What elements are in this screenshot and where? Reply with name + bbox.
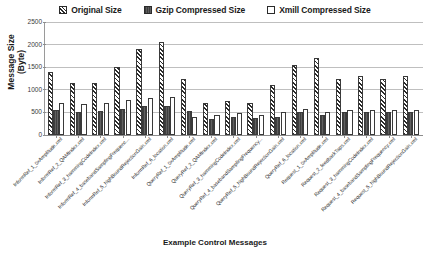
bar-gzip-compressed-size <box>253 118 258 135</box>
bar-group <box>289 22 311 135</box>
bar-group <box>222 22 244 135</box>
bar-group <box>156 22 178 135</box>
bar-group <box>355 22 377 135</box>
bar-original-size <box>70 83 75 135</box>
bar-gzip-compressed-size <box>53 110 58 135</box>
chart-bars <box>45 22 422 135</box>
bar-original-size <box>314 58 319 135</box>
chart-plot-area: 05001000150020002500 <box>44 22 422 135</box>
bar-group <box>200 22 222 135</box>
bar-xmill-compressed-size <box>303 109 308 135</box>
bar-original-size <box>92 83 97 135</box>
legend-label-original-size: Original Size <box>71 5 121 15</box>
y-tick-label-1000: 1000 <box>28 87 42 94</box>
bar-xmill-compressed-size <box>104 103 109 135</box>
bar-original-size <box>114 67 119 135</box>
bar-xmill-compressed-size <box>148 98 153 135</box>
y-tick-label-2000: 2000 <box>28 42 42 49</box>
legend-item-gzip-compressed-size: Gzip Compressed Size <box>144 5 246 15</box>
x-tick-label: InformRef_6_location.xml <box>130 136 174 180</box>
bar-xmill-compressed-size <box>370 110 375 135</box>
bar-group <box>378 22 400 135</box>
bar-group <box>267 22 289 135</box>
bar-xmill-compressed-size <box>192 117 197 135</box>
bar-original-size <box>403 76 408 135</box>
bar-group <box>333 22 355 135</box>
bar-group <box>67 22 89 135</box>
bar-gzip-compressed-size <box>275 117 280 135</box>
bar-xmill-compressed-size <box>347 110 352 135</box>
bar-group <box>311 22 333 135</box>
bar-group <box>89 22 111 135</box>
bar-xmill-compressed-size <box>392 110 397 135</box>
bar-group <box>400 22 422 135</box>
bar-xmill-compressed-size <box>259 115 264 135</box>
bar-gzip-compressed-size <box>408 112 413 136</box>
bar-gzip-compressed-size <box>164 106 169 135</box>
legend-label-gzip-compressed-size: Gzip Compressed Size <box>156 5 246 15</box>
bar-group <box>178 22 200 135</box>
bar-xmill-compressed-size <box>214 115 219 135</box>
bar-gzip-compressed-size <box>209 119 214 135</box>
legend-swatch-dark-fill-icon <box>144 6 152 14</box>
bar-xmill-compressed-size <box>81 104 86 135</box>
bar-gzip-compressed-size <box>231 117 236 135</box>
bar-gzip-compressed-size <box>120 109 125 135</box>
bar-gzip-compressed-size <box>364 112 369 136</box>
y-tick-label-1500: 1500 <box>28 64 42 71</box>
bar-xmill-compressed-size <box>59 103 64 135</box>
bar-xmill-compressed-size <box>237 113 242 135</box>
x-axis-tick-labels: InformRef_1_0xAmplitude.xmlInformRef_2_Q… <box>44 136 422 236</box>
bar-gzip-compressed-size <box>342 112 347 135</box>
legend-item-original-size: Original Size <box>59 5 121 15</box>
bar-group <box>245 22 267 135</box>
bar-original-size <box>292 65 297 135</box>
bar-original-size <box>247 103 252 135</box>
bar-group <box>112 22 134 135</box>
bar-original-size <box>159 42 164 135</box>
y-tick-label-0: 0 <box>38 132 42 139</box>
bar-xmill-compressed-size <box>414 110 419 135</box>
y-axis-title-line1: Message Size <box>6 24 16 100</box>
bar-gzip-compressed-size <box>297 112 302 135</box>
bar-xmill-compressed-size <box>126 100 131 135</box>
legend-label-xmill-compressed-size: Xmill Compressed Size <box>279 5 370 15</box>
bar-group <box>45 22 67 135</box>
y-axis-title-line2: (Byte) <box>16 24 26 100</box>
bar-original-size <box>358 76 363 135</box>
legend-swatch-diagonal-hatch-icon <box>59 6 67 14</box>
bar-gzip-compressed-size <box>142 106 147 135</box>
bar-original-size <box>181 79 186 136</box>
y-tick-label-2500: 2500 <box>28 19 42 26</box>
y-tick-label-500: 500 <box>31 109 42 116</box>
y-axis-title: Message Size (Byte) <box>6 24 26 100</box>
bar-original-size <box>136 49 141 135</box>
bar-gzip-compressed-size <box>98 111 103 135</box>
bar-xmill-compressed-size <box>325 112 330 136</box>
x-tick-label: QueryRef_6_location.xml <box>263 136 307 180</box>
legend-item-xmill-compressed-size: Xmill Compressed Size <box>267 5 370 15</box>
bar-group <box>134 22 156 135</box>
bar-gzip-compressed-size <box>187 111 192 135</box>
bar-original-size <box>48 72 53 135</box>
bar-original-size <box>270 85 275 135</box>
bar-xmill-compressed-size <box>281 112 286 135</box>
legend-swatch-white-fill-icon <box>267 6 275 14</box>
bar-gzip-compressed-size <box>320 115 325 135</box>
bar-gzip-compressed-size <box>386 112 391 135</box>
x-axis-title: Example Control Messages <box>0 238 430 247</box>
bar-gzip-compressed-size <box>76 112 81 136</box>
bar-original-size <box>203 103 208 135</box>
bar-xmill-compressed-size <box>170 97 175 135</box>
bar-original-size <box>225 101 230 135</box>
bar-original-size <box>336 79 341 136</box>
chart-legend: Original Size Gzip Compressed Size Xmill… <box>0 2 430 18</box>
bar-original-size <box>380 79 385 136</box>
